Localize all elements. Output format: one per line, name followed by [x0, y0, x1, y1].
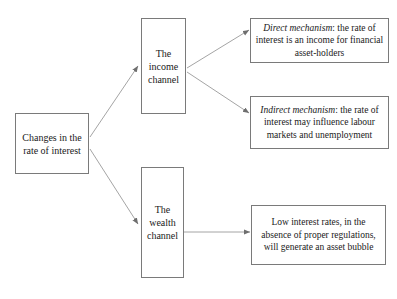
node-wealth-channel: The wealth channel — [141, 167, 184, 278]
node-bubble-label: Low interest rates, in the absence of pr… — [252, 216, 385, 254]
node-wealth-label: The wealth channel — [142, 203, 183, 242]
node-direct-text: Direct mechanism: the rate of interest i… — [251, 22, 388, 60]
node-direct-mechanism: Direct mechanism: the rate of interest i… — [250, 18, 389, 63]
edge-income-to-indirect — [187, 72, 249, 113]
node-income-label: The income channel — [142, 47, 185, 86]
node-direct-lead: Direct mechanism — [263, 23, 332, 33]
node-asset-bubble: Low interest rates, in the absence of pr… — [251, 205, 386, 265]
flowchart-canvas: Changes in the rate of interest The inco… — [0, 0, 397, 299]
node-indirect-text: Indirect mechanism: the rate of interest… — [251, 104, 388, 142]
edge-income-to-direct — [187, 30, 249, 68]
node-indirect-mechanism: Indirect mechanism: the rate of interest… — [250, 96, 389, 149]
edge-changes-to-income — [90, 66, 138, 137]
node-indirect-lead: Indirect mechanism — [260, 105, 335, 115]
node-income-channel: The income channel — [141, 18, 186, 114]
node-changes-in-rate-of-interest: Changes in the rate of interest — [15, 113, 89, 174]
edge-changes-to-wealth — [90, 149, 138, 224]
node-changes-label: Changes in the rate of interest — [16, 131, 88, 157]
